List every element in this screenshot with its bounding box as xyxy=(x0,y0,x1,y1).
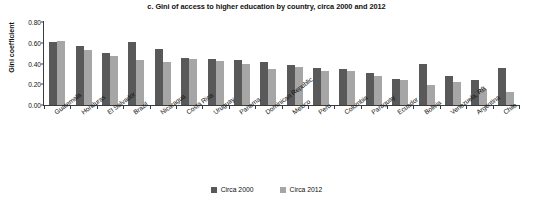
x-axis-tick-mark xyxy=(493,105,494,109)
plot-area: 0.000.200.400.600.80 xyxy=(44,22,519,105)
bar-1 xyxy=(216,61,224,105)
y-axis-tick-label: 0.60 xyxy=(28,39,41,46)
x-axis-tick-mark xyxy=(282,105,283,109)
bar-1 xyxy=(189,59,197,105)
bar-0 xyxy=(49,42,57,105)
x-axis-tick-mark xyxy=(308,105,309,109)
bar-0 xyxy=(419,64,427,106)
legend-label: Circa 2000 xyxy=(221,186,254,193)
bar-1 xyxy=(136,60,144,105)
bar-0 xyxy=(155,49,163,105)
chart-legend: Circa 2000 Circa 2012 xyxy=(0,186,533,193)
x-axis-tick-mark xyxy=(44,105,45,109)
bar-1 xyxy=(110,56,118,105)
bar-0 xyxy=(234,60,242,105)
legend-swatch-icon xyxy=(211,187,217,193)
x-axis-tick-mark xyxy=(413,105,414,109)
legend-label: Circa 2012 xyxy=(290,186,323,193)
x-axis-tick-mark xyxy=(150,105,151,109)
bar-1 xyxy=(84,50,92,105)
x-axis-tick-mark xyxy=(466,105,467,109)
legend-item-series-1: Circa 2012 xyxy=(280,186,323,193)
chart-container: c. Gini of access to higher education by… xyxy=(0,0,533,205)
bar-1 xyxy=(57,41,65,105)
bar-1 xyxy=(321,71,329,105)
bar-group xyxy=(308,68,334,105)
y-axis-tick-label: 0.20 xyxy=(28,81,41,88)
bar-1 xyxy=(163,62,171,105)
legend-item-series-0: Circa 2000 xyxy=(211,186,254,193)
x-axis-tick-mark xyxy=(387,105,388,109)
x-axis-tick-mark xyxy=(334,105,335,109)
bar-0 xyxy=(313,68,321,105)
x-axis-tick-mark xyxy=(519,105,520,109)
bar-1 xyxy=(242,64,250,106)
y-axis-tick-label: 0.40 xyxy=(28,60,41,67)
x-axis-tick-mark xyxy=(255,105,256,109)
y-axis-tick-mark xyxy=(41,22,44,23)
x-axis-tick-mark xyxy=(176,105,177,109)
bar-0 xyxy=(445,76,453,105)
x-axis-tick-mark xyxy=(229,105,230,109)
chart-title: c. Gini of access to higher education by… xyxy=(0,2,533,11)
x-axis-tick-mark xyxy=(123,105,124,109)
x-axis-tick-mark xyxy=(440,105,441,109)
bar-group xyxy=(44,41,70,105)
x-axis-tick-mark xyxy=(97,105,98,109)
bar-group xyxy=(150,49,176,105)
x-axis-tick-mark xyxy=(361,105,362,109)
bar-0 xyxy=(260,62,268,105)
bar-1 xyxy=(268,69,276,105)
legend-swatch-icon xyxy=(280,187,286,193)
x-axis-tick-mark xyxy=(70,105,71,109)
y-axis-label: Gini coefficient xyxy=(8,13,15,83)
y-axis-tick-label: 0.00 xyxy=(28,102,41,109)
x-axis-tick-mark xyxy=(202,105,203,109)
y-axis-tick-label: 0.80 xyxy=(28,19,41,26)
bar-0 xyxy=(339,69,347,105)
